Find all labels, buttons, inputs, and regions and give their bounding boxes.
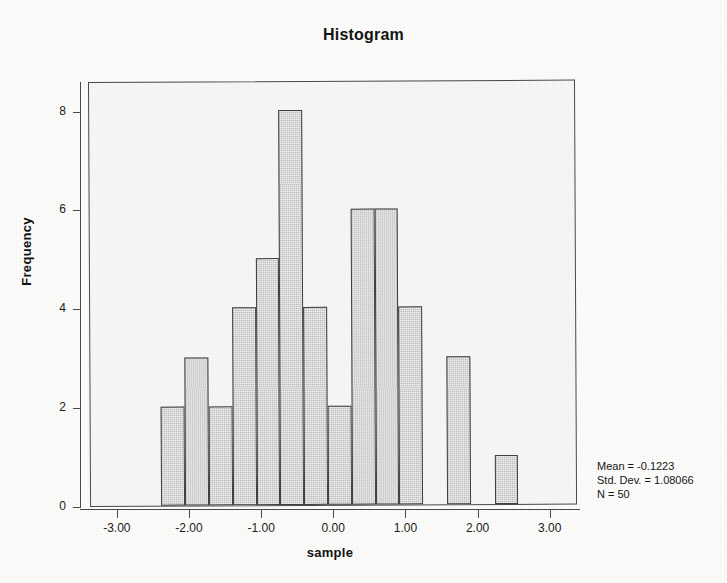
statistics-annotation: Mean = -0.1223 Std. Dev. = 1.08066 N = 5… xyxy=(597,459,694,501)
histogram-figure: Histogram 02468 Frequency -3.00-2.00-1.0… xyxy=(0,0,727,583)
x-axis-tick xyxy=(117,509,118,518)
x-axis-tick xyxy=(333,509,334,518)
x-axis-tick-label: -1.00 xyxy=(231,521,291,535)
x-axis-tick xyxy=(189,509,190,518)
bars-container xyxy=(89,81,576,506)
x-axis-tick xyxy=(550,509,551,518)
histogram-bar xyxy=(374,208,399,505)
histogram-bar xyxy=(328,406,352,505)
y-axis-tick xyxy=(73,112,81,113)
histogram-bar xyxy=(399,307,424,505)
y-axis-tick-label: 6 xyxy=(38,202,66,216)
stat-mean: Mean = -0.1223 xyxy=(597,459,694,473)
y-axis-line xyxy=(80,82,81,508)
x-axis-line xyxy=(80,509,580,510)
y-axis-tick-label: 4 xyxy=(38,301,66,315)
histogram-bar xyxy=(446,356,471,504)
x-axis-tick-label: 0.00 xyxy=(303,521,363,535)
x-axis-tick-label: 2.00 xyxy=(448,521,508,535)
x-axis-tick xyxy=(405,509,406,518)
histogram-bar xyxy=(255,258,280,505)
histogram-bar xyxy=(303,307,328,505)
histogram-bar xyxy=(209,406,233,505)
x-axis-tick-label: 3.00 xyxy=(520,521,580,535)
y-axis-tick-label: 2 xyxy=(38,400,66,414)
stat-std-dev: Std. Dev. = 1.08066 xyxy=(597,473,694,487)
y-axis-tick xyxy=(73,507,81,508)
stat-n: N = 50 xyxy=(597,487,694,501)
y-axis-tick xyxy=(73,210,81,211)
y-axis-tick-label: 8 xyxy=(38,104,66,118)
chart-title: Histogram xyxy=(0,26,727,44)
x-axis-tick xyxy=(261,509,262,518)
histogram-bar xyxy=(494,454,518,504)
x-axis-tick-label: -3.00 xyxy=(87,521,147,535)
histogram-bar xyxy=(184,357,209,505)
x-axis-tick-label: 1.00 xyxy=(375,521,435,535)
histogram-bar xyxy=(279,110,305,505)
plot-area xyxy=(88,80,577,507)
histogram-bar xyxy=(350,208,375,505)
y-axis-title: Frequency xyxy=(19,217,34,285)
y-axis-tick xyxy=(73,309,81,310)
histogram-bar xyxy=(161,407,185,506)
x-axis-tick-label: -2.00 xyxy=(159,521,219,535)
histogram-bar xyxy=(232,308,257,506)
x-axis-tick xyxy=(478,509,479,518)
x-axis-title: sample xyxy=(0,545,660,560)
y-axis-tick xyxy=(73,408,81,409)
y-axis-tick-label: 0 xyxy=(38,499,66,513)
